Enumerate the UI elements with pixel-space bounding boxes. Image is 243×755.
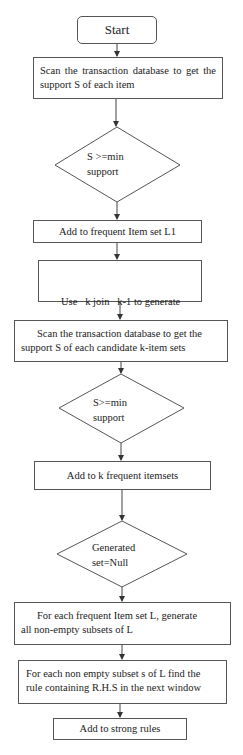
join-line1: Use k join k-1 to generate	[45, 295, 195, 309]
decision-2-text: S>=min support	[93, 395, 127, 425]
add-k-step: Add to k frequent itemsets	[34, 461, 211, 490]
scan-candidates-step: Scan the transaction database to get the…	[14, 320, 228, 362]
start-label: Start	[105, 23, 130, 37]
add-strong-label: Add to strong rules	[80, 722, 161, 736]
add-k-label: Add to k frequent itemsets	[67, 469, 178, 483]
decision-3-text: Generated set=Null	[92, 540, 135, 570]
decision-3-line2: set=Null	[92, 555, 135, 570]
find-rule-step: For each non empty subset s of L find th…	[18, 660, 227, 704]
add-l1-step: Add to frequent Item set L1	[33, 220, 202, 243]
scan-items-label: Scan the transaction database to get the…	[40, 65, 216, 90]
decision-1-line1: S >=min	[87, 149, 124, 164]
find-rule-line1: For each non empty subset s of L find th…	[26, 667, 219, 681]
scan-items-step: Scan the transaction database to get the…	[33, 57, 223, 99]
find-rule-line2: rule containing R.H.S in the next window	[26, 681, 219, 695]
decision-1-line2: support	[87, 164, 124, 179]
generate-subsets-step: For each frequent Item set L, generate a…	[14, 602, 231, 645]
decision-3-line1: Generated	[92, 540, 135, 555]
add-strong-rules-step: Add to strong rules	[53, 718, 187, 740]
join-step: Use k join k-1 to generate a set of cand…	[38, 260, 202, 302]
add-l1-label: Add to frequent Item set L1	[59, 225, 176, 239]
decision-2-line2: support	[93, 410, 127, 425]
start-terminal: Start	[77, 16, 157, 44]
flowchart: Start Scan the transaction database to g…	[0, 0, 243, 755]
subsets-line2: all non-empty subsets of L	[21, 623, 224, 637]
scan-candidates-line2: support S of each candidate k-item sets	[21, 341, 221, 355]
scan-candidates-line1: Scan the transaction database to get the	[21, 327, 221, 341]
decision-1-text: S >=min support	[87, 149, 124, 179]
decision-2-line1: S>=min	[93, 395, 127, 410]
subsets-line1: For each frequent Item set L, generate	[21, 609, 224, 623]
